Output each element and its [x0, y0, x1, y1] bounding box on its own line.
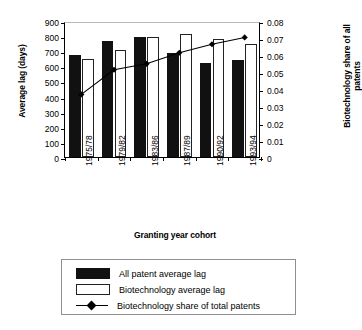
y-tick-label-right: 0.04 — [267, 87, 297, 95]
y-axis-title-right: Biotechnology share of all patents — [342, 16, 362, 136]
legend-label: Biotechnology share of total patents — [117, 301, 260, 311]
y-tick-label-right: 0.03 — [267, 104, 297, 112]
x-tick — [163, 157, 164, 161]
x-tick — [196, 157, 197, 161]
y-tick-label-right: 0.08 — [267, 19, 297, 27]
y-tick-label-left: 300 — [25, 110, 59, 118]
legend-swatch-white — [76, 284, 110, 295]
legend-item: Biotechnology share of total patents — [76, 298, 295, 313]
x-tick — [65, 157, 66, 161]
line-marker-diamond — [176, 50, 182, 56]
y-tick-label-left: 900 — [25, 19, 59, 27]
y-tick-label-left: 600 — [25, 64, 59, 72]
legend-item: Biotechnology average lag — [76, 282, 295, 297]
legend-label: Biotechnology average lag — [119, 285, 225, 295]
y-tick-label-left: 400 — [25, 95, 59, 103]
y-tick-label-left: 700 — [25, 49, 59, 57]
legend-item: All patent average lag — [76, 266, 295, 281]
x-tick — [98, 157, 99, 161]
line-marker-diamond — [209, 41, 215, 47]
line-biotechnology-share — [81, 37, 244, 94]
legend-label: All patent average lag — [119, 269, 206, 279]
y-tick-label-left: 0 — [25, 155, 59, 163]
x-tick — [130, 157, 131, 161]
line-marker-diamond — [242, 34, 248, 40]
y-tick-label-right: 0.05 — [267, 70, 297, 78]
x-tick — [228, 157, 229, 161]
x-tick — [261, 157, 262, 161]
y-tick-label-right: 0.01 — [267, 138, 297, 146]
y-tick-label-right: 0.06 — [267, 53, 297, 61]
y-tick-label-right: 0.07 — [267, 36, 297, 44]
x-axis-category-label: 1979/82 — [117, 135, 127, 166]
legend-swatch-line — [76, 301, 108, 310]
line-series — [65, 23, 261, 159]
x-axis-title: Granting year cohort — [60, 230, 290, 240]
x-axis-category-label: 1975/78 — [84, 135, 94, 166]
y-tick-label-left: 100 — [25, 140, 59, 148]
chart-area: Average lag (days) Biotechnology share o… — [0, 0, 359, 248]
y-tick-label-right: 0.02 — [267, 121, 297, 129]
x-axis-category-label: 1983/86 — [150, 135, 160, 166]
chart-legend: All patent average lagBiotechnology aver… — [61, 259, 296, 315]
y-tick-label-left: 800 — [25, 34, 59, 42]
y-tick-label-left: 500 — [25, 79, 59, 87]
x-axis-category-label: 1990/92 — [215, 135, 225, 166]
y-tick-label-left: 200 — [25, 125, 59, 133]
x-axis-category-label: 1987/89 — [182, 135, 192, 166]
line-marker-diamond — [144, 61, 150, 67]
y-tick-label-right: 0 — [267, 155, 297, 163]
legend-swatch-black — [76, 268, 110, 279]
x-axis-category-label: 1993/94 — [248, 135, 258, 166]
